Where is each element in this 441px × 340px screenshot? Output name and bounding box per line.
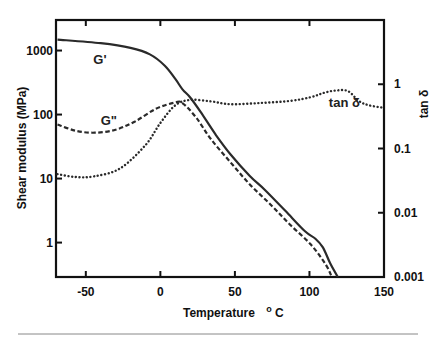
y2-tick-label: 0.1 — [394, 142, 411, 156]
y-tick-label: 100 — [33, 108, 53, 122]
y2-tick-label: 0.001 — [394, 270, 424, 284]
series-labels: G'G"tan δ — [93, 52, 360, 128]
x-tick-label: 50 — [228, 285, 242, 299]
x-tick-label: 0 — [157, 285, 164, 299]
series-label-g-double-prime: G" — [101, 113, 117, 128]
x-tick-label: -50 — [77, 285, 95, 299]
y2-tick-label: 0.01 — [394, 206, 418, 220]
x-axis-unit-degree: o — [266, 304, 272, 314]
series-line-g-double-prime — [58, 102, 332, 277]
x-tick-label: 100 — [299, 285, 319, 299]
y2-tick-label: 1 — [394, 77, 401, 91]
dma-chart: -50050100150 1101001000 0.0010.010.11 G'… — [0, 0, 441, 340]
series-line-g-prime — [58, 40, 338, 277]
series-label-tan-delta: tan δ — [329, 95, 360, 110]
y-tick-label: 10 — [40, 172, 54, 186]
y-axis-title: Shear modulus (MPa) — [15, 87, 29, 210]
x-axis-title: Temperature o C — [183, 301, 284, 320]
x-axis-title-text: Temperature — [183, 306, 255, 320]
x-tick-label: 150 — [374, 285, 394, 299]
x-axis-unit: C — [275, 306, 284, 320]
y-tick-label: 1000 — [26, 44, 53, 58]
y2-axis-title: tan δ — [417, 90, 431, 119]
series-label-g-prime: G' — [93, 52, 106, 67]
y-tick-label: 1 — [46, 236, 53, 250]
series-layer — [58, 40, 385, 277]
